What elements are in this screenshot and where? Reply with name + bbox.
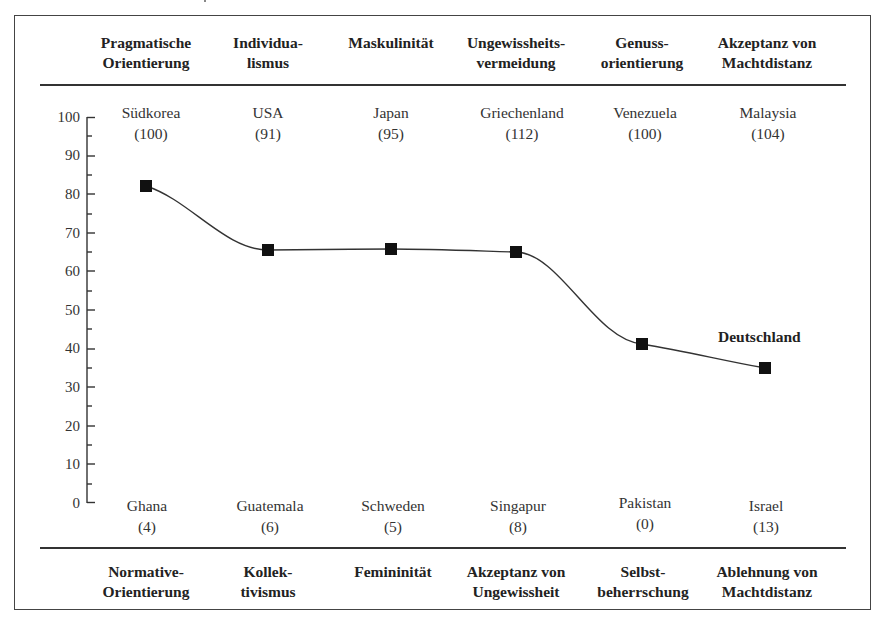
bottom-divider bbox=[40, 547, 846, 549]
y-axis bbox=[87, 117, 95, 503]
marker-individualism bbox=[262, 244, 274, 256]
bottom-header-femininity: Femininität bbox=[328, 562, 458, 582]
bottom-header-restraint: Selbst- beherrschung bbox=[578, 562, 708, 602]
bottom-country-israel: Israel (13) bbox=[701, 495, 831, 537]
marker-indulgence bbox=[636, 338, 648, 350]
bottom-country-pakistan: Pakistan (0) bbox=[580, 492, 710, 534]
bottom-header-normative: Normative- Orientierung bbox=[81, 562, 211, 602]
bottom-header-uncertainty-acceptance: Akzeptanz von Ungewissheit bbox=[451, 562, 581, 602]
marker-power-distance bbox=[759, 362, 771, 374]
bottom-country-singapur: Singapur (8) bbox=[453, 495, 583, 537]
bottom-header-power-distance-rejection: Ablehnung von Machtdistanz bbox=[702, 562, 832, 602]
marker-masculinity bbox=[385, 243, 397, 255]
bottom-country-guatemala: Guatemala (6) bbox=[205, 495, 335, 537]
bottom-country-schweden: Schweden (5) bbox=[328, 495, 458, 537]
series-line-deutschland bbox=[146, 186, 765, 368]
bottom-country-ghana: Ghana (4) bbox=[82, 495, 212, 537]
marker-pragmatic bbox=[140, 180, 152, 192]
bottom-header-collectivism: Kollek- tivismus bbox=[203, 562, 333, 602]
marker-uncertainty bbox=[510, 246, 522, 258]
series-annotation-deutschland: Deutschland bbox=[718, 328, 801, 346]
series-markers bbox=[140, 180, 771, 374]
